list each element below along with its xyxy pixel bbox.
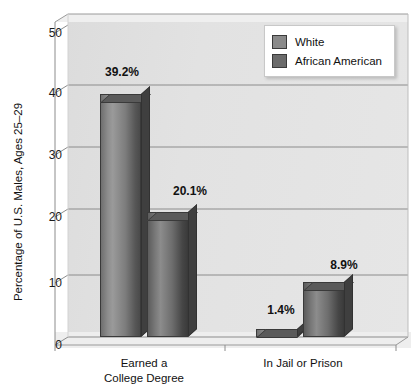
bar-african-american-jail-or-prison (303, 282, 344, 337)
y-tick-40: 40 (36, 86, 62, 100)
bar-front-face (147, 212, 188, 337)
bar-african-american-college-degree (147, 212, 188, 337)
value-label-white-college-degree: 39.2% (105, 65, 139, 79)
legend-item-white[interactable]: White (272, 32, 387, 51)
bar-white-college-degree (100, 94, 141, 337)
category-label-college-degree: Earned aCollege Degree (104, 356, 184, 386)
y-axis-ticks: 50 40 30 20 10 0 (22, 0, 62, 390)
y-tick-20: 20 (36, 210, 62, 224)
value-label-african-american-college-degree: 20.1% (173, 184, 207, 198)
bar-side-face (188, 204, 197, 337)
legend-swatch-white-icon (272, 35, 287, 49)
legend-label-white: White (295, 36, 324, 48)
category-label-line2: College Degree (104, 372, 184, 384)
category-label-line1: Earned a (121, 357, 168, 369)
value-label-african-american-jail-or-prison: 8.9% (330, 258, 357, 272)
value-label-white-jail-or-prison: 1.4% (267, 303, 294, 317)
y-tick-0: 0 (36, 338, 62, 352)
chart-legend: White African American (264, 25, 395, 77)
y-tick-10: 10 (36, 276, 62, 290)
bar-chart: 50 40 30 20 10 0 Percentage of U.S. Male… (0, 0, 415, 390)
category-label-jail-or-prison: In Jail or Prison (263, 356, 342, 371)
y-tick-50: 50 (36, 26, 62, 40)
bar-front-face (100, 94, 141, 337)
legend-swatch-african-american-icon (272, 54, 287, 68)
legend-label-african-american: African American (295, 55, 382, 67)
y-tick-30: 30 (36, 148, 62, 162)
bar-side-face (344, 274, 353, 337)
y-axis-title: Percentage of U.S. Males, Ages 25–29 (12, 87, 24, 317)
bar-white-jail-or-prison (256, 329, 297, 337)
legend-item-african-american[interactable]: African American (272, 51, 387, 70)
